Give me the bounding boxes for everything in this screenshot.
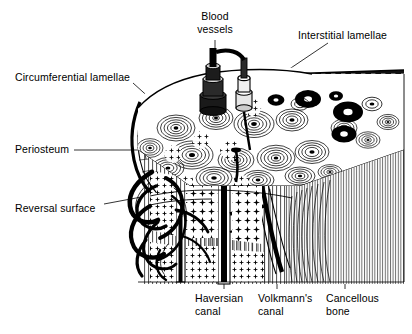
label-reversal-surface: Reversal surface	[15, 202, 125, 215]
label-cancellous-bone: Cancellous bone	[326, 292, 398, 317]
bone-illustration	[0, 0, 412, 334]
label-haversian-canal: Haversian canal	[195, 292, 261, 317]
label-blood-vessels: Blood vessels	[184, 10, 246, 35]
bone-block	[130, 48, 410, 288]
label-interstitial-lamellae: Interstitial lamellae	[298, 29, 410, 42]
bone-structure-figure: Blood vessels Interstitial lamellae Circ…	[0, 0, 412, 334]
label-volkmanns-canal: Volkmann's canal	[258, 292, 330, 317]
label-periosteum: Periosteum	[15, 143, 95, 156]
label-circumferential-lamellae: Circumferential lamellae	[15, 71, 155, 84]
